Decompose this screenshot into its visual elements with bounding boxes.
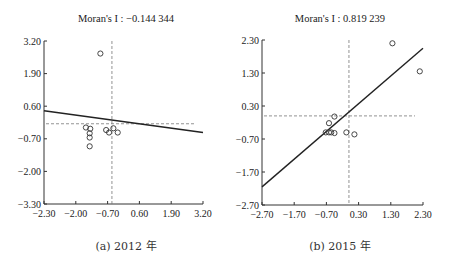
x-tick-label: −2.70 — [250, 209, 273, 220]
moran-scatter-figure: Moran's I : −0.144 344−2.30−2.00−0.700.6… — [0, 0, 453, 268]
data-point — [332, 130, 337, 135]
y-tick-label: −1.70 — [236, 167, 259, 178]
x-tick-label: 0.30 — [350, 209, 368, 220]
x-tick-label: −2.30 — [32, 208, 55, 219]
y-tick-label: −2.70 — [236, 200, 259, 211]
y-tick-label: 1.30 — [242, 68, 260, 79]
y-tick-label: 0.60 — [24, 101, 42, 112]
data-point — [344, 130, 349, 135]
data-point — [87, 144, 92, 149]
x-tick-label: 1.30 — [382, 209, 400, 220]
chart-panel-2015: Moran's I : 0.819 239−2.70−1.70−0.700.30… — [236, 13, 432, 253]
x-tick-label: 3.20 — [194, 208, 212, 219]
chart-caption: (b) 2015 年 — [309, 239, 371, 253]
y-tick-label: −0.70 — [18, 133, 41, 144]
data-point — [390, 41, 395, 46]
y-tick-label: 2.30 — [242, 35, 260, 46]
data-point — [98, 51, 103, 56]
data-point — [115, 130, 120, 135]
data-point — [417, 69, 422, 74]
chart-title: Moran's I : −0.144 344 — [78, 13, 175, 24]
x-tick-label: 0.60 — [131, 208, 149, 219]
y-tick-label: 0.30 — [242, 101, 260, 112]
regression-line — [44, 111, 203, 133]
y-tick-label: −3.30 — [18, 199, 41, 210]
x-tick-label: −0.70 — [96, 208, 119, 219]
data-point — [326, 121, 331, 126]
chart-caption: (a) 2012 年 — [95, 239, 156, 253]
chart-panel-2012: Moran's I : −0.144 344−2.30−2.00−0.700.6… — [18, 13, 212, 253]
x-tick-label: −1.70 — [283, 209, 306, 220]
data-point — [332, 114, 337, 119]
y-tick-label: 3.20 — [24, 36, 42, 47]
chart-title: Moran's I : 0.819 239 — [295, 13, 385, 24]
x-tick-label: −2.00 — [64, 208, 87, 219]
regression-line — [262, 48, 423, 187]
data-point — [352, 132, 357, 137]
x-tick-label: 1.90 — [162, 208, 180, 219]
y-tick-label: −2.00 — [18, 166, 41, 177]
y-tick-label: 1.90 — [24, 68, 42, 79]
x-tick-label: 2.30 — [414, 209, 432, 220]
x-tick-label: −0.70 — [315, 209, 338, 220]
y-tick-label: −0.70 — [236, 134, 259, 145]
